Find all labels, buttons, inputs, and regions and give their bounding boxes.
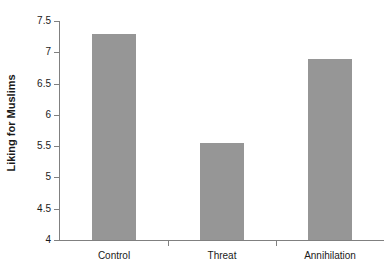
y-axis-tick-mark xyxy=(54,177,59,178)
bar xyxy=(308,59,352,240)
x-axis-tick-label: Threat xyxy=(168,249,276,262)
y-axis-tick-label: 5 xyxy=(45,170,51,183)
x-axis-tick-label: Annihilation xyxy=(276,249,384,262)
y-axis-tick: 5.5 xyxy=(0,146,59,147)
y-axis-tick-mark xyxy=(54,84,59,85)
y-axis-tick: 4.5 xyxy=(0,209,59,210)
y-axis-tick: 5 xyxy=(0,177,59,178)
y-axis-tick-label: 6 xyxy=(45,108,51,121)
y-axis-tick: 6 xyxy=(0,115,59,116)
y-axis-tick: 7.5 xyxy=(0,21,59,22)
y-axis-tick: 6.5 xyxy=(0,84,59,85)
y-axis-tick-label: 4 xyxy=(45,233,51,246)
y-axis-tick: 4 xyxy=(0,240,59,241)
bar xyxy=(92,34,136,240)
y-axis-tick-mark xyxy=(54,240,59,241)
y-axis-tick-label: 7 xyxy=(45,45,51,58)
x-axis-tick-mark xyxy=(168,241,169,246)
y-axis-tick-label: 7.5 xyxy=(37,14,51,27)
x-axis-tick-label: Control xyxy=(60,249,168,262)
x-axis-tick-mark xyxy=(276,241,277,246)
y-axis-tick-mark xyxy=(54,209,59,210)
y-axis-tick-mark xyxy=(54,21,59,22)
y-axis-title-label: Liking for Muslims xyxy=(5,74,17,171)
y-axis-tick-label: 5.5 xyxy=(37,139,51,152)
y-axis-tick-label: 6.5 xyxy=(37,77,51,90)
bar-chart: Liking for Muslims 44.555.566.577.5 Cont… xyxy=(0,0,384,276)
y-axis-tick-label: 4.5 xyxy=(37,202,51,215)
y-axis-tick: 7 xyxy=(0,52,59,53)
y-axis-tick-mark xyxy=(54,146,59,147)
y-axis-tick-mark xyxy=(54,52,59,53)
bar xyxy=(200,143,244,240)
y-axis-tick-mark xyxy=(54,115,59,116)
x-axis-line xyxy=(59,240,384,241)
plot-area xyxy=(60,21,384,240)
